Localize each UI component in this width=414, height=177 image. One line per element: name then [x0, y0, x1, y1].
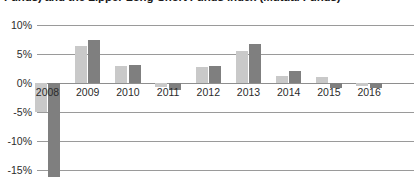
- y-axis-tick-label: 5%: [0, 49, 32, 60]
- x-axis-tick-label: 2015: [317, 87, 340, 98]
- bar: [129, 65, 141, 83]
- bar: [289, 71, 301, 83]
- bar: [276, 76, 288, 83]
- y-axis-tick-label: 10%: [0, 20, 32, 31]
- bar: [236, 51, 248, 83]
- x-axis-tick-label: 2008: [36, 87, 59, 98]
- gridline-neg15: [37, 170, 414, 171]
- gridline-neg10: [37, 141, 414, 142]
- bar-chart: Funds) and the Lipper Long-Short Funds I…: [0, 0, 414, 177]
- x-axis-tick-label: 2012: [197, 87, 220, 98]
- bar: [209, 66, 221, 83]
- gridline-neg5: [37, 112, 414, 113]
- y-axis-tick-label: -5%: [0, 107, 32, 118]
- x-axis-tick-label: 2011: [157, 87, 180, 98]
- gridline-10: [37, 25, 414, 26]
- y-axis-tick-label: -10%: [0, 136, 32, 147]
- bar: [115, 66, 127, 83]
- x-axis-tick-label: 2009: [76, 87, 99, 98]
- bar: [196, 67, 208, 83]
- bar: [249, 44, 261, 83]
- y-axis-tick-label: 0%: [0, 78, 32, 89]
- x-axis-tick-label: 2010: [116, 87, 139, 98]
- bar: [316, 77, 328, 83]
- x-axis-tick-label: 2014: [277, 87, 300, 98]
- bar: [88, 40, 100, 83]
- y-axis-tick-label: -15%: [0, 165, 32, 176]
- x-axis-tick-label: 2013: [237, 87, 260, 98]
- bar: [75, 46, 87, 83]
- x-axis-tick-label: 2016: [357, 87, 380, 98]
